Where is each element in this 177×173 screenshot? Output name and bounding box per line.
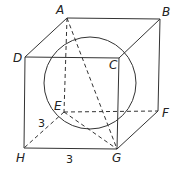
vertex-label-G: G — [112, 152, 121, 164]
edge-CG — [117, 58, 119, 149]
vertex-label-H: H — [16, 152, 25, 164]
edge-BC — [119, 19, 160, 58]
vertex-label-D: D — [13, 52, 22, 64]
edge-CD — [25, 57, 119, 58]
edge-BF — [158, 19, 160, 111]
edge-AE — [64, 18, 67, 112]
vertex-label-A: A — [56, 4, 64, 16]
edge-EF — [64, 111, 158, 112]
edge-HD — [24, 57, 25, 148]
edge-AB — [67, 18, 160, 19]
edge-GH — [24, 148, 117, 149]
vertex-label-C: C — [109, 59, 117, 71]
vertex-label-E: E — [54, 100, 62, 112]
cube-figure — [0, 0, 177, 173]
inscribed-sphere — [44, 37, 136, 129]
vertex-label-F: F — [162, 107, 169, 119]
diagonal-EG — [64, 112, 117, 149]
cube-diagram: A B C D E F G H 3 3 — [0, 0, 177, 173]
edge-label-HG: 3 — [66, 154, 73, 165]
edge-DA — [25, 18, 67, 57]
edge-FG — [117, 111, 158, 149]
edge-label-HE: 3 — [38, 118, 45, 129]
vertex-label-B: B — [162, 6, 170, 18]
